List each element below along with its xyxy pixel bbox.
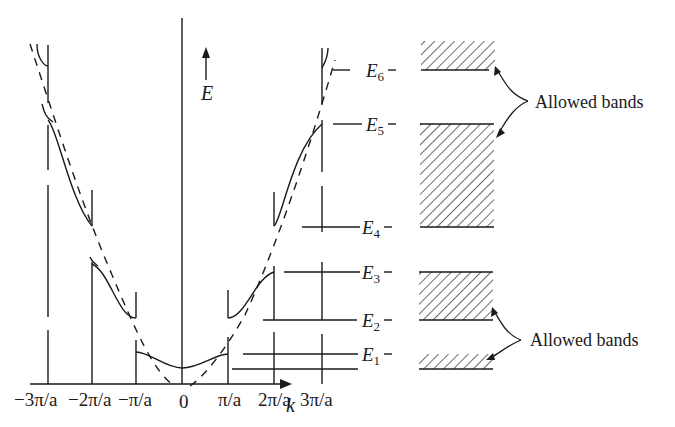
band-4-curve-right <box>322 48 328 68</box>
energy-level-lines <box>232 70 362 369</box>
band-4-curve-left <box>37 44 53 122</box>
band-3-curve-right <box>274 124 322 226</box>
band-e4-e5 <box>420 124 494 227</box>
energy-arrow-head <box>202 47 210 58</box>
level-label-e4: E4 <box>361 217 381 241</box>
band-2-curve-right <box>228 272 274 318</box>
band-e1 <box>419 354 493 369</box>
tick-label-minus-2pi: −2π/a <box>68 389 112 410</box>
allowed-bands-label-lower: Allowed bands <box>530 330 638 350</box>
allowed-bands-label-upper: Allowed bands <box>535 92 643 112</box>
zone-boundary-lines <box>48 45 322 384</box>
level-label-e2: E2 <box>361 310 380 334</box>
level-label-e1: E1 <box>361 344 380 368</box>
band-e6 <box>421 41 495 70</box>
energy-axis-label: E <box>200 82 213 104</box>
band-3-curve-left <box>48 120 92 226</box>
tick-label-minus-3pi: −3π/a <box>14 389 58 410</box>
k-axis-arrowhead <box>280 379 292 389</box>
level-label-e3: E3 <box>361 262 380 286</box>
band-2-curve-left <box>92 264 136 318</box>
tick-label-zero: 0 <box>179 391 189 412</box>
tick-label-minus-pi: −π/a <box>118 389 153 410</box>
band-e2-e3 <box>419 272 493 320</box>
level-label-e6: E6 <box>365 60 385 84</box>
level-label-e5: E5 <box>365 114 384 138</box>
k-tick-labels: −3π/a −2π/a −π/a 0 π/a 2π/a 3π/a <box>14 389 333 412</box>
tick-label-2pi: 2π/a <box>258 389 291 410</box>
tick-label-pi: π/a <box>218 389 242 410</box>
tick-label-3pi: 3π/a <box>300 389 333 410</box>
band-structure-diagram: E k −3π/a −2π/a −π/a 0 π/a 2π/a 3π/a E6 … <box>0 0 675 427</box>
level-tick-marks <box>384 70 396 354</box>
energy-level-labels: E6 E5 E4 E3 E2 E1 <box>361 60 385 368</box>
allowed-bands <box>419 41 495 369</box>
annotation-arrows <box>490 70 528 358</box>
